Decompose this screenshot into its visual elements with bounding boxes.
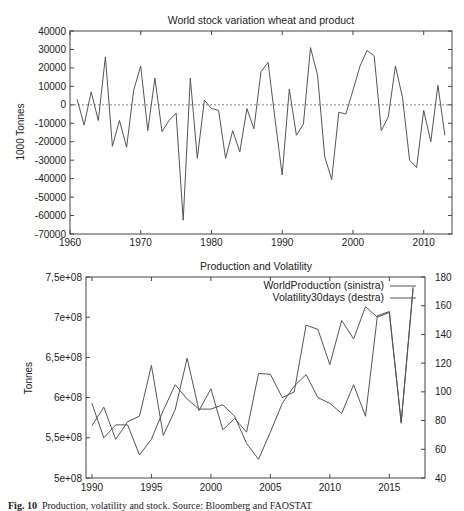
plot-frame [70, 31, 452, 234]
stock-variation-line [77, 48, 445, 221]
y-axis-label: 1000 Tonnes [15, 103, 26, 160]
y-tick-label: -10000 [35, 118, 67, 129]
y-tick-label: 0 [60, 99, 66, 110]
y-tick-label: 7,5e+08 [46, 272, 83, 283]
x-tick-label: 2015 [378, 482, 401, 493]
axes: 5e+085,5e+086e+086,5e+087e+087,5e+084060… [46, 272, 453, 494]
volatility-line [92, 287, 413, 459]
y-tick-label: -20000 [35, 136, 67, 147]
y-tick-label: 20000 [38, 62, 66, 73]
x-tick-label: 2005 [259, 482, 282, 493]
chart-title: Production and Volatility [200, 260, 313, 272]
x-tick-label: 2000 [342, 237, 365, 248]
x-tick-label: 1960 [59, 237, 82, 248]
y-right-tick-label: 120 [435, 358, 452, 369]
legend-label-volatility: Volatility30days (destra) [273, 291, 384, 303]
y-tick-label: 6e+08 [54, 392, 83, 403]
x-tick-label: 2000 [200, 482, 223, 493]
figure-caption: Fig. 10 Production, volatility and stock… [8, 500, 312, 511]
caption-label: Fig. 10 [8, 500, 37, 511]
y-tick-label: 40000 [38, 26, 66, 37]
y-right-tick-label: 140 [435, 329, 452, 340]
x-tick-label: 2010 [413, 237, 436, 248]
chart-title: World stock variation wheat and product [168, 14, 355, 26]
production-volatility-chart: Production and Volatility Tonnes 5e+085,… [23, 260, 452, 493]
caption-text: Production, volatility and stock. Source… [42, 500, 312, 511]
axes: 400003000020000100000-10000-20000-30000-… [35, 26, 452, 249]
x-tick-label: 1980 [200, 237, 223, 248]
y-right-tick-label: 160 [435, 300, 452, 311]
y-right-tick-label: 60 [435, 444, 447, 455]
y-tick-label: 6,5e+08 [46, 352, 83, 363]
x-tick-label: 1970 [130, 237, 153, 248]
x-tick-label: 1995 [140, 482, 163, 493]
y-tick-label: -30000 [35, 155, 67, 166]
x-tick-label: 1990 [81, 482, 104, 493]
y-tick-label: 5,5e+08 [46, 432, 83, 443]
y-right-tick-label: 80 [435, 415, 447, 426]
y-tick-label: -50000 [35, 192, 67, 203]
y-tick-label: 10000 [38, 81, 66, 92]
y-axis-label: Tonnes [23, 362, 34, 394]
x-tick-label: 1990 [271, 237, 294, 248]
y-tick-label: 5e+08 [54, 473, 83, 484]
legend: WorldProduction (sinistra) Volatility30d… [263, 279, 416, 303]
y-right-tick-label: 180 [435, 272, 452, 283]
x-tick-label: 2010 [319, 482, 342, 493]
y-right-tick-label: 100 [435, 386, 452, 397]
production-line [92, 289, 413, 439]
stock-variation-chart: World stock variation wheat and product … [15, 14, 452, 248]
legend-label-production: WorldProduction (sinistra) [263, 279, 384, 291]
y-tick-label: 30000 [38, 44, 66, 55]
y-tick-label: -60000 [35, 210, 67, 221]
y-tick-label: -40000 [35, 173, 67, 184]
y-tick-label: 7e+08 [54, 312, 83, 323]
y-right-tick-label: 40 [435, 473, 447, 484]
